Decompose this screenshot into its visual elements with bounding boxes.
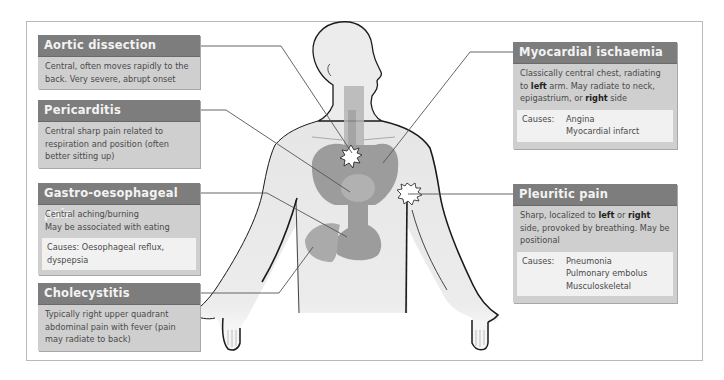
cause-item: Pneumonia [566, 255, 647, 268]
gastro-line-1: Central aching/burning [45, 208, 194, 221]
aortic-dissection-box: Aortic dissection Central, often moves r… [38, 35, 200, 89]
emphasis-right: right [628, 210, 650, 220]
gastro-causes: Causes: Oesophageal reflux, dyspepsia [42, 238, 196, 270]
causes-label: Causes: [522, 113, 566, 138]
pleuritic-description: Sharp, localized to left or right side, … [520, 209, 671, 247]
text-segment: side, provoked by breathing. May be posi… [520, 223, 670, 246]
text-segment: or [614, 210, 628, 220]
emphasis-left: left [598, 210, 614, 220]
myocardial-ischaemia-box: Myocardial ischaemia Classically central… [513, 42, 677, 149]
cause-item: Musculoskeletal [566, 280, 647, 293]
cholecystitis-title: Cholecystitis [38, 283, 200, 305]
gastro-oesophageal-title: Gastro-oesophageal pain [38, 183, 200, 205]
pleuritic-pain-body: Sharp, localized to left or right side, … [513, 206, 677, 303]
cause-item: Pulmonary embolus [566, 267, 647, 280]
gastro-oesophageal-box: Gastro-oesophageal pain Central aching/b… [38, 183, 200, 275]
aortic-dissection-text: Central, often moves rapidly to the back… [38, 57, 200, 89]
text-segment: Sharp, localized to [520, 210, 598, 220]
pericarditis-title: Pericarditis [38, 100, 200, 122]
pericarditis-box: Pericarditis Central sharp pain related … [38, 100, 200, 168]
myocardial-description: Classically central chest, radiating to … [520, 67, 671, 105]
myocardial-causes: Causes: Angina Myocardial infarct [517, 110, 673, 142]
cause-item: Myocardial infarct [566, 125, 639, 138]
aortic-dissection-title: Aortic dissection [38, 35, 200, 57]
emphasis-left: left [531, 81, 547, 91]
causes-label: Causes: [522, 255, 566, 293]
emphasis-right: right [585, 93, 607, 103]
gastro-line-2: May be associated with eating [45, 221, 194, 234]
pericarditis-text: Central sharp pain related to respiratio… [38, 122, 200, 168]
cause-item: Angina [566, 113, 639, 126]
myocardial-ischaemia-title: Myocardial ischaemia [513, 42, 677, 64]
cholecystitis-box: Cholecystitis Typically right upper quad… [38, 283, 200, 351]
pleuritic-causes: Causes: Pneumonia Pulmonary embolus Musc… [517, 252, 673, 297]
text-segment: side [608, 93, 627, 103]
cholecystitis-text: Typically right upper quadrant abdominal… [38, 305, 200, 351]
causes-list: Pneumonia Pulmonary embolus Musculoskele… [566, 255, 647, 293]
pericardium-shape [341, 174, 375, 202]
causes-list: Angina Myocardial infarct [566, 113, 639, 138]
gastro-oesophageal-body: Central aching/burning May be associated… [38, 205, 200, 275]
myocardial-ischaemia-body: Classically central chest, radiating to … [513, 64, 677, 149]
pleuritic-pain-box: Pleuritic pain Sharp, localized to left … [513, 184, 677, 303]
pleuritic-pain-title: Pleuritic pain [513, 184, 677, 206]
